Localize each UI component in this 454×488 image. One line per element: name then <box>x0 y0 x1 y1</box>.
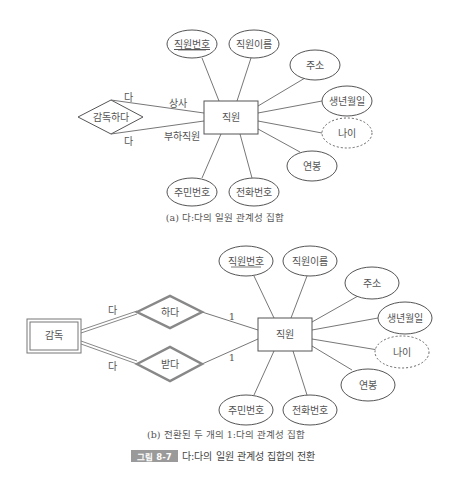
relationship-supervise-a-label: 감독하다 <box>93 111 129 123</box>
attr-phone-b-label: 전화번호 <box>292 405 328 416</box>
caption-b: (b) 전환된 두 개의 1:다의 관계성 집합 <box>147 429 305 440</box>
card-lower-a: 다 <box>124 136 133 147</box>
attr-address-b-label: 주소 <box>363 278 381 289</box>
attr-age-a-label: 나이 <box>338 128 356 139</box>
figure-label: 그림 8-7 <box>137 452 171 462</box>
card-weak-lower-b: 다 <box>108 361 117 372</box>
figure-title: 다:다의 일원 관계성 집합의 전환 <box>182 451 315 462</box>
attr-salary-b-label: 연봉 <box>359 380 377 391</box>
attr-emp-name-b-label: 직원이름 <box>292 256 328 267</box>
attr-emp-no-a-label: 직원번호 <box>174 39 210 50</box>
entity-employee-a-label: 직원 <box>222 112 240 123</box>
attr-emp-name-a-label: 직원이름 <box>236 39 272 50</box>
attr-age-b-label: 나이 <box>393 347 411 358</box>
relationship-receive-label: 받다 <box>161 359 179 370</box>
attr-emp-no-b-label: 직원번호 <box>228 256 264 267</box>
card-entity-upper-b: 1 <box>229 311 235 322</box>
attr-address-a-label: 주소 <box>306 60 324 71</box>
attr-birth-a-label: 생년월일 <box>329 96 365 107</box>
role-lower-a: 부하직원 <box>164 130 200 142</box>
diagram-a: 직원 감독하다 다 다 상사 부하직원 직원번호 직원이름 주소 생년월일 나이… <box>78 30 372 223</box>
attr-resident-no-a-label: 주민번호 <box>174 187 210 198</box>
role-upper-a: 상사 <box>169 98 187 109</box>
attr-salary-a-label: 연봉 <box>303 161 321 172</box>
attr-phone-a-label: 전화번호 <box>236 187 272 198</box>
card-weak-upper-b: 다 <box>108 305 117 316</box>
entity-employee-b-label: 직원 <box>276 329 294 340</box>
card-entity-lower-b: 1 <box>229 352 235 363</box>
attr-resident-no-b-label: 주민번호 <box>228 405 264 416</box>
relationship-do-label: 하다 <box>161 306 179 318</box>
er-diagram-figure: 직원 감독하다 다 다 상사 부하직원 직원번호 직원이름 주소 생년월일 나이… <box>0 0 454 488</box>
figure-caption: 그림 8-7 다:다의 일원 관계성 집합의 전환 <box>131 450 315 462</box>
caption-a: (a) 다:다의 일원 관계성 집합 <box>166 212 284 223</box>
weak-entity-supervision-label: 감독 <box>45 330 63 341</box>
attr-birth-b-label: 생년월일 <box>387 313 423 324</box>
card-upper-a: 다 <box>124 92 133 103</box>
